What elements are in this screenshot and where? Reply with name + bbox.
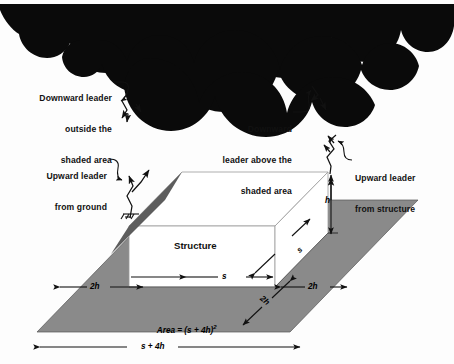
figure-canvas: Downward leader outside the shaded area … (0, 0, 454, 364)
dim-offset-left-2h: 2h (90, 282, 100, 291)
label-downward-leader-above: Downward leader above the shaded area (190, 103, 292, 217)
label-upward-leader-structure: Upward leader from structure (355, 152, 454, 235)
area-formula-equals: = ( (175, 326, 187, 335)
dim-width-s: s (222, 272, 227, 281)
area-formula-exponent: 2 (213, 324, 216, 330)
structure-label: Structure (174, 240, 217, 251)
area-formula: Area = (s + 4h)2 (148, 315, 217, 344)
area-formula-prefix: Area (157, 326, 175, 335)
area-formula-expression: s + 4h (187, 326, 210, 335)
dim-height-h: h (325, 196, 330, 205)
dim-offset-right-2h: 2h (308, 282, 318, 291)
label-upward-leader-ground: Upward leader from ground (10, 150, 107, 233)
